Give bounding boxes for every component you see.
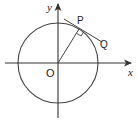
- right-angle-marker: [76, 32, 83, 36]
- diagram-canvas: y x O P Q: [0, 0, 137, 124]
- x-axis-label: x: [127, 66, 133, 78]
- point-p-label: P: [77, 15, 84, 26]
- origin-label: O: [46, 67, 55, 79]
- y-axis-label: y: [46, 1, 52, 13]
- circle-tangent-diagram: y x O P Q: [0, 0, 137, 124]
- radius-op: [58, 29, 79, 63]
- point-q-label: Q: [100, 39, 108, 50]
